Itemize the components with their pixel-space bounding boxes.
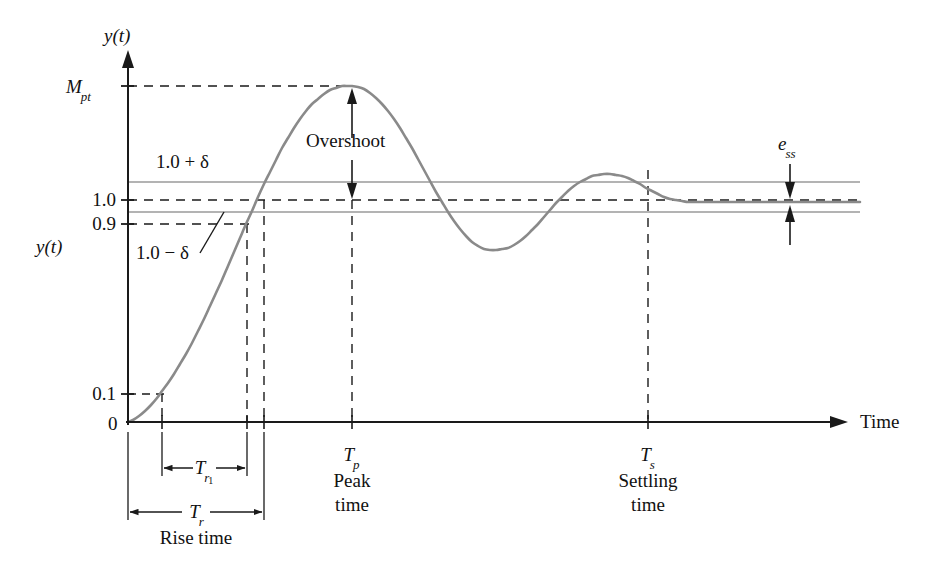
y-tick-label-one: 1.0 (76, 190, 116, 209)
steady-state-error-label: ess (778, 134, 797, 156)
lower-band-leader-line (200, 212, 224, 253)
peak-time-symbol: Tp (322, 445, 382, 467)
rise-time-symbol: Tr (172, 502, 222, 524)
y-tick-label-one-tenth: 0.1 (76, 384, 116, 403)
rise-time-1-symbol: Tr1 (180, 458, 230, 480)
mpt-subscript: pt (81, 89, 91, 104)
tolerance-band-upper-label: 1.0 + δ (156, 152, 209, 171)
step-response-curve (128, 86, 860, 422)
overshoot-arrowhead-up (347, 88, 357, 104)
overshoot-label: Overshoot (306, 131, 385, 150)
y-axis-label-side: y(t) (36, 237, 62, 256)
diagram-canvas (0, 0, 930, 566)
ess-arrowhead-up (785, 205, 795, 222)
settling-time-caption-line2: time (598, 495, 698, 514)
peak-time-caption-line2: time (312, 495, 392, 514)
settling-time-symbol: Ts (618, 445, 678, 467)
y-tick-label-mpt: Mpt (66, 77, 92, 99)
peak-time-caption-line1: Peak (312, 471, 392, 490)
ess-arrowhead-down (785, 182, 795, 199)
origin-label: 0 (108, 414, 118, 433)
ess-subscript: ss (785, 146, 795, 161)
overshoot-arrowhead-down (347, 183, 357, 199)
rise-time-caption: Rise time (136, 528, 256, 547)
y-tick-label-nine-tenths: 0.9 (76, 214, 116, 233)
x-axis (126, 416, 848, 428)
tolerance-band-lower-label: 1.0 − δ (136, 243, 189, 262)
mpt-base: M (66, 76, 82, 97)
step-response-figure: y(t) y(t) Time 0 Mpt 1.0 0.9 0.1 1.0 + δ… (0, 0, 930, 566)
y-axis (122, 50, 134, 425)
tr1-subsubscript: 1 (208, 475, 213, 486)
ess-arrow-group (785, 164, 795, 245)
x-axis-arrowhead (830, 416, 848, 428)
y-axis-label-top: y(t) (104, 26, 130, 45)
settling-time-caption-line1: Settling (598, 471, 698, 490)
x-axis-label: Time (860, 412, 899, 431)
y-axis-arrowhead (122, 50, 134, 68)
